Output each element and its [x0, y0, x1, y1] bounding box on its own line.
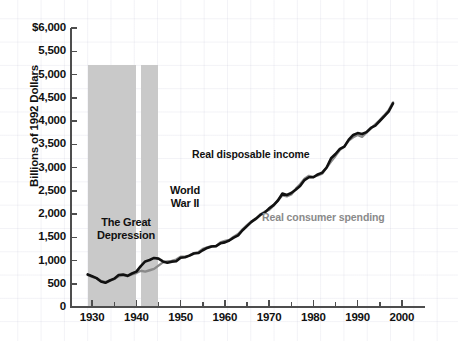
plot-area [70, 28, 424, 307]
x-tick-label: 2000 [389, 311, 414, 323]
y-tick-label: 500 [6, 277, 66, 289]
x-minor-tick-mark [202, 302, 204, 307]
y-axis-line [70, 28, 72, 308]
x-tick-mark [357, 300, 359, 307]
x-minor-tick-mark [246, 302, 248, 307]
x-tick-label: 1980 [301, 311, 326, 323]
x-tick-mark [268, 300, 270, 307]
series-line-real-consumer-spending [88, 102, 393, 281]
x-tick-mark [224, 300, 226, 307]
x-minor-tick-mark [379, 302, 381, 307]
y-tick-label: 0 [6, 300, 66, 312]
x-minor-tick-mark [158, 302, 160, 307]
x-tick-mark [180, 300, 182, 307]
y-tick-label: 1,000 [6, 254, 66, 266]
x-tick-mark [136, 300, 138, 307]
y-tick-label: 4,000 [6, 114, 66, 126]
y-tick-label: 4,500 [6, 91, 66, 103]
y-tick-label: 5,000 [6, 68, 66, 80]
y-tick-label: $6,000 [6, 21, 66, 33]
x-tick-mark [401, 300, 403, 307]
x-tick-label: 1940 [124, 311, 149, 323]
y-tick-label: 3,000 [6, 161, 66, 173]
x-tick-label: 1950 [168, 311, 193, 323]
x-minor-tick-mark [114, 302, 116, 307]
y-tick-label: 1,500 [6, 230, 66, 242]
x-minor-tick-mark [291, 302, 293, 307]
x-tick-label: 1970 [257, 311, 282, 323]
x-tick-label: 1990 [345, 311, 370, 323]
y-tick-label: 2,000 [6, 207, 66, 219]
series-line-real-disposable-income [88, 103, 393, 282]
y-tick-label: 2,500 [6, 184, 66, 196]
band-label-great-depression: The Great Depression [78, 216, 174, 241]
band-label-world-war-ii: World War II [158, 184, 212, 209]
annotation-real-consumer-spending: Real consumer spending [262, 211, 385, 223]
x-tick-label: 1960 [212, 311, 237, 323]
x-tick-mark [91, 300, 93, 307]
series-lines [70, 28, 424, 307]
y-tick-label: 3,500 [6, 137, 66, 149]
x-minor-tick-mark [335, 302, 337, 307]
chart-screenshot: Billions of 1992 Dollars $6,0005,5005,00… [0, 0, 458, 341]
x-tick-mark [313, 300, 315, 307]
x-tick-label: 1930 [80, 311, 105, 323]
annotation-real-disposable-income: Real disposable income [192, 148, 309, 160]
y-tick-label: 5,500 [6, 44, 66, 56]
